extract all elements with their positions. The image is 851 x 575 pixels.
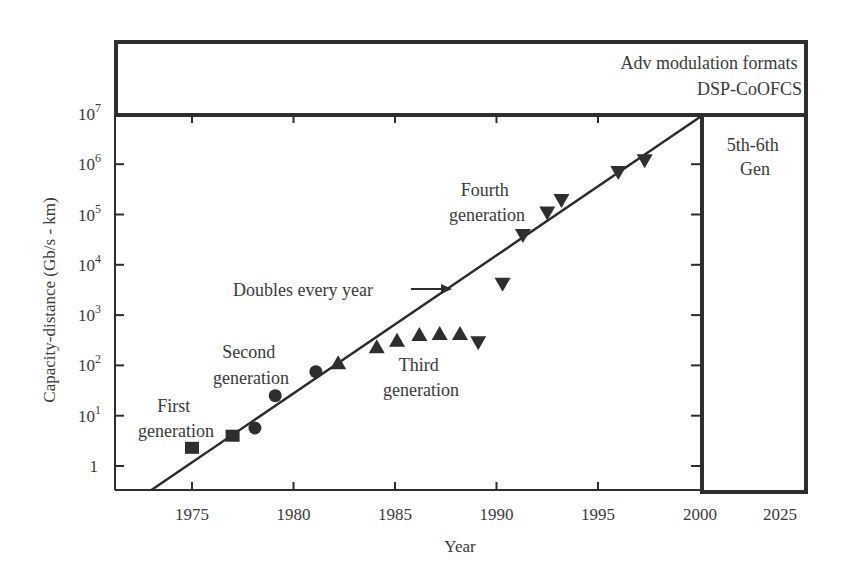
y-tick-label: 106 — [78, 151, 101, 174]
annotation-first-generation: First generation — [138, 396, 214, 441]
data-point-triangle-up — [452, 326, 468, 340]
data-point-triangle-up — [411, 327, 427, 341]
data-markers — [185, 154, 653, 454]
arrow-doubles — [411, 284, 452, 294]
data-point-circle — [269, 389, 282, 402]
frame — [115, 42, 806, 492]
data-point-triangle-down — [470, 336, 486, 350]
annotation-fourth-generation: Fourth generation — [449, 180, 525, 225]
data-point-triangle-up — [389, 333, 405, 347]
x-tick-label: 1980 — [277, 505, 311, 524]
data-point-triangle-up — [432, 326, 448, 340]
annotation-second-generation: Second generation — [213, 342, 289, 388]
data-point-square — [185, 442, 199, 454]
data-point-triangle-up — [330, 355, 346, 369]
data-point-triangle-down — [553, 194, 569, 208]
y-tick-label: 104 — [78, 252, 101, 275]
y-axis-title: Capacity-distance (Gb/s - km) — [40, 197, 59, 402]
data-point-triangle-down — [610, 166, 626, 180]
data-point-circle — [248, 421, 261, 434]
data-point-triangle-down — [495, 278, 511, 292]
data-point-triangle-down — [637, 154, 653, 168]
axis-tick-labels: 1975198019851990199520002025110110210310… — [78, 101, 797, 524]
x-tick-label: 1990 — [480, 505, 514, 524]
x-tick-label: 2025 — [763, 505, 797, 524]
x-tick-label: 1975 — [175, 505, 209, 524]
capacity-distance-chart: 1975198019851990199520002025110110210310… — [0, 0, 851, 575]
x-tick-label: 2000 — [683, 505, 717, 524]
data-point-circle — [309, 365, 322, 378]
y-tick-label: 107 — [78, 101, 101, 124]
right-band-text: 5th-6th Gen — [727, 135, 784, 179]
y-tick-label: 1 — [90, 457, 99, 476]
y-tick-label: 103 — [78, 302, 101, 325]
annotation-doubles-every-year: Doubles every year — [233, 280, 373, 300]
data-point-square — [226, 430, 240, 442]
annotation-third-generation: Third generation — [383, 355, 459, 400]
y-tick-label: 105 — [78, 202, 101, 225]
top-band-text: Adv modulation formats DSP-CoOFCS — [621, 53, 802, 99]
x-axis-title: Year — [444, 537, 476, 556]
x-tick-label: 1985 — [378, 505, 412, 524]
y-tick-label: 101 — [78, 403, 101, 426]
x-tick-label: 1995 — [581, 505, 615, 524]
y-tick-label: 102 — [78, 352, 101, 375]
